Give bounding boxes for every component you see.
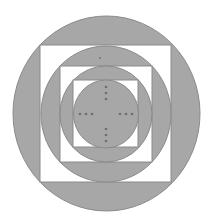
dot-icon [91, 113, 94, 116]
dot-icon [125, 113, 128, 116]
dot-icon [85, 113, 88, 116]
shape-layers [13, 16, 200, 211]
dot-icon [99, 57, 101, 59]
dot-icon [105, 86, 108, 89]
circle-4 [74, 80, 139, 148]
dot-icon [105, 134, 108, 137]
dot-icon [105, 92, 108, 95]
dot-icon [119, 113, 122, 116]
nested-shapes-diagram [0, 0, 207, 222]
dot-icon [79, 113, 82, 116]
dot-icon [131, 113, 134, 116]
dot-icon [105, 140, 108, 143]
dot-icon [105, 128, 108, 131]
dot-icon [105, 98, 108, 101]
